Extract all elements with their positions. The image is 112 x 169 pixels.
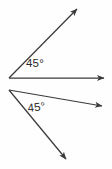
bottom-angle-group xyxy=(9,90,102,159)
bottom-angle-upper-ray xyxy=(9,90,102,106)
top-angle-group xyxy=(9,9,104,78)
geometry-svg xyxy=(0,0,112,169)
top-angle-measure-label: 45° xyxy=(26,58,44,70)
angle-figure-canvas: 45° 45° xyxy=(0,0,112,169)
bottom-angle-measure-label: 45° xyxy=(27,101,46,114)
